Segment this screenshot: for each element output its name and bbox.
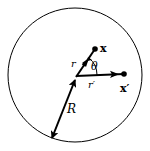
diagram-svg: x x′ r r′ θ R [0, 0, 150, 151]
point-x [92, 46, 98, 52]
sphere-diagram: x x′ r r′ θ R [0, 0, 150, 151]
label-r-prime: r′ [88, 79, 96, 90]
point-x-prime [121, 71, 127, 77]
label-theta: θ [91, 60, 98, 73]
label-R: R [66, 102, 76, 116]
label-r: r [71, 58, 77, 69]
label-x-prime: x′ [120, 82, 130, 95]
label-x: x [100, 42, 107, 55]
